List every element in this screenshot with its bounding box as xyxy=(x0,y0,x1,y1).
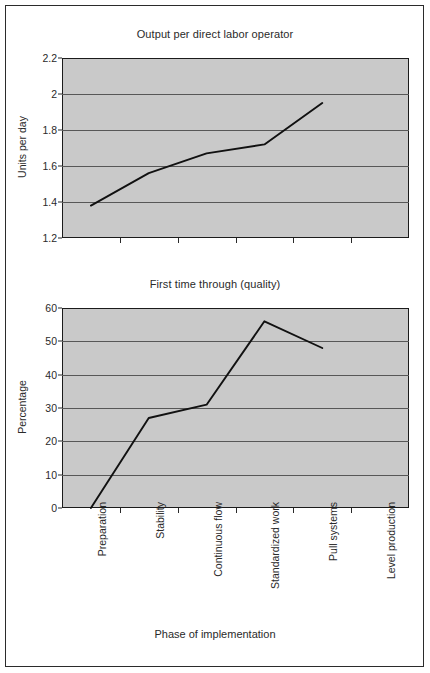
x-category-label: Continuous flow xyxy=(212,502,224,577)
x-category-label: Standardized work xyxy=(269,502,281,589)
x-axis-category-labels: PreparationStabilityContinuous flowStand… xyxy=(0,502,430,620)
y-tick-label: 2.2 xyxy=(42,52,57,64)
data-series-line xyxy=(62,58,409,238)
y-axis-title: Units per day xyxy=(16,57,28,237)
x-category-label: Preparation xyxy=(96,502,108,556)
x-tick-mark xyxy=(236,238,237,243)
y-tick-label: 40 xyxy=(45,369,57,381)
y-tick-label: 60 xyxy=(45,302,57,314)
y-tick-label: 1.6 xyxy=(42,160,57,172)
x-tick-mark xyxy=(178,238,179,243)
x-tick-mark xyxy=(293,238,294,243)
x-category-label: Level production xyxy=(385,502,397,579)
x-axis-title: Phase of implementation xyxy=(0,628,430,640)
chart-output-per-operator: Output per direct labor operator Units p… xyxy=(0,28,430,268)
y-tick-label: 10 xyxy=(45,469,57,481)
x-category-label: Stability xyxy=(154,502,166,539)
y-tick-label: 1.2 xyxy=(42,232,57,244)
data-series-line xyxy=(62,308,409,508)
y-tick-label: 50 xyxy=(45,335,57,347)
chart-title: First time through (quality) xyxy=(0,278,430,290)
x-category-label: Pull systems xyxy=(327,502,339,561)
y-axis-title: Percentage xyxy=(16,307,28,507)
plot-area: 0102030405060 xyxy=(62,308,409,508)
plot-area: 1.21.41.61.822.2 xyxy=(62,58,409,238)
x-tick-mark xyxy=(120,238,121,243)
figure-container: Output per direct labor operator Units p… xyxy=(0,0,430,673)
x-tick-mark xyxy=(351,238,352,243)
y-tick-label: 2 xyxy=(51,88,57,100)
chart-title: Output per direct labor operator xyxy=(0,28,430,40)
y-tick-label: 30 xyxy=(45,402,57,414)
chart-first-time-through: First time through (quality) Percentage … xyxy=(0,278,430,518)
y-tick-label: 1.8 xyxy=(42,124,57,136)
y-tick-label: 1.4 xyxy=(42,196,57,208)
y-tick-label: 20 xyxy=(45,435,57,447)
